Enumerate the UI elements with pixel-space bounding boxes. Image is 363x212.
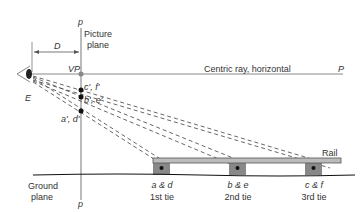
point-c-f: [79, 88, 84, 93]
point-a-d: [79, 109, 84, 114]
label-tie3-points: c & f: [299, 180, 329, 190]
label-ground: Ground: [28, 181, 58, 191]
label-eye: E: [25, 93, 31, 103]
label-plane: plane: [87, 40, 109, 50]
ties: [153, 163, 322, 175]
label-centric-ray: Centric ray, horizontal: [204, 64, 291, 74]
label-ad: a', d': [61, 114, 79, 124]
label-distance: D: [54, 41, 61, 51]
label-rail: Rail: [322, 148, 338, 158]
label-p-top: p: [78, 17, 83, 27]
label-tie2-points: b & e: [223, 180, 253, 190]
label-tie1-points: a & d: [147, 180, 177, 190]
label-tie2: 2nd tie: [218, 192, 258, 202]
eye-icon: [17, 66, 32, 82]
label-ground-plane: plane: [31, 192, 53, 202]
label-vp: VP: [68, 64, 80, 74]
label-picture: Picture: [84, 29, 112, 39]
label-tie3: 3rd tie: [294, 192, 334, 202]
perspective-diagram: p Picture plane D VP E Centric ray, hori…: [0, 0, 363, 212]
label-cf: c', f': [84, 82, 99, 92]
label-tie1: 1st tie: [143, 192, 181, 202]
label-be: b', e': [84, 95, 102, 105]
label-p-end: P: [338, 64, 344, 74]
point-b-e: [79, 95, 84, 100]
label-p-bottom: p: [78, 199, 83, 209]
rail: [153, 158, 341, 163]
